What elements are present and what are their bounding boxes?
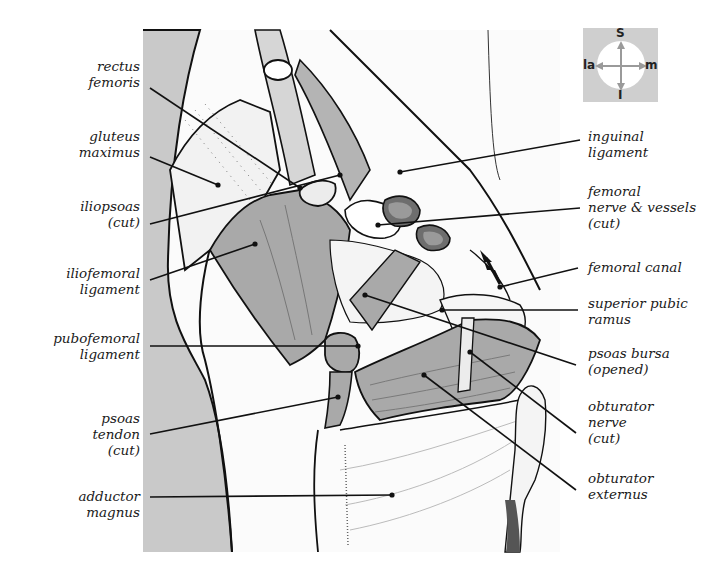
label-pubofemoral-ligament: pubofemoral ligament (53, 330, 140, 362)
leader-dot-iliofemoral-ligament (252, 241, 257, 246)
label-psoas-bursa: psoas bursa (opened) (588, 345, 670, 377)
compass-medial: m (645, 58, 658, 72)
label-psoas-tendon-cut: psoas tendon (cut) (92, 410, 140, 458)
pubofemoral-ligament-shape (325, 333, 359, 372)
label-iliopsoas-cut: iliopsoas (cut) (80, 198, 140, 230)
leader-dot-iliopsoas-cut (337, 172, 342, 177)
anatomy-figure: S I la m rectus femoris gluteus maximus … (0, 0, 707, 578)
label-femoral-nerve-vessels: femoral nerve & vessels (cut) (588, 183, 696, 231)
leader-dot-adductor-magnus (389, 492, 394, 497)
label-rectus-femoris: rectus femoris (88, 58, 140, 90)
leader-dot-obturator-nerve-cut (467, 349, 472, 354)
leader-dot-psoas-bursa-opened (362, 292, 367, 297)
leader-dot-gluteus-maximus (215, 182, 220, 187)
label-obturator-externus: obturator externus (588, 470, 653, 502)
leader-dot-psoas-tendon-cut (335, 394, 340, 399)
leader-dot-superior-pubic-ramus (439, 307, 444, 312)
compass-lateral: la (583, 58, 595, 72)
leader-dot-pubofemoral-ligament (355, 343, 360, 348)
label-obturator-nerve: obturator nerve (cut) (588, 398, 653, 446)
label-femoral-canal: femoral canal (588, 259, 682, 275)
compass-superior: S (616, 26, 625, 40)
label-iliofemoral-ligament: iliofemoral ligament (66, 265, 140, 297)
orientation-compass: S I la m (583, 28, 658, 102)
leader-dot-obturator-externus (421, 372, 426, 377)
leader-dot-femoral-canal (497, 284, 502, 289)
label-inguinal-ligament: inguinal ligament (588, 128, 648, 160)
leader-dot-inguinal-ligament (397, 169, 402, 174)
leader-dot-femoral-nerve-vessels-cut (375, 222, 380, 227)
compass-inferior: I (618, 88, 622, 102)
label-gluteus-maximus: gluteus maximus (79, 128, 140, 160)
label-adductor-magnus: adductor magnus (78, 488, 140, 520)
label-superior-pubic-ramus: superior pubic ramus (588, 295, 688, 327)
